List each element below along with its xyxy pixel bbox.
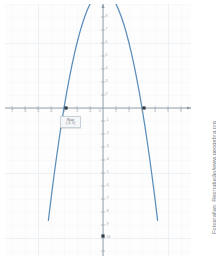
y-tick-label: -8: [106, 210, 109, 213]
x-tick-label: -5: [36, 110, 39, 113]
x-tick-label: 5: [167, 110, 169, 113]
plot-area: -7 -6 -5 -4 -3 -2 -1 0 1 2 3 4 5 6 8 7 6…: [5, 4, 191, 256]
x-tick-label: 2: [128, 110, 130, 113]
y-tick-label: -6: [106, 184, 109, 187]
y-tick-label: 2: [106, 93, 108, 96]
root-callout[interactable]: Raiz (-3, 0): [60, 116, 81, 128]
x-tick-label: 4: [154, 110, 156, 113]
x-tick-label: -4: [49, 110, 52, 113]
x-tick-label: -2: [75, 110, 78, 113]
credit-text: Fotografias: Reprodução/www.geogebra.org: [211, 121, 216, 234]
y-tick-label: 7: [106, 28, 108, 31]
x-tick-label: -3: [62, 110, 65, 113]
callout-coords: (-3, 0): [63, 122, 78, 126]
x-tick-label: 3: [141, 110, 143, 113]
x-tick-label: -7: [10, 110, 13, 113]
y-tick-label: 3: [106, 80, 108, 83]
major-gridlines: [5, 4, 191, 256]
x-tick-label: -6: [23, 110, 26, 113]
y-tick-label: 8: [106, 15, 108, 18]
y-tick-label: -7: [106, 197, 109, 200]
vertex-point[interactable]: [101, 234, 104, 237]
x-tick-label: -1: [88, 110, 91, 113]
credit-strip: Fotografias: Reprodução/www.geogebra.org: [191, 0, 216, 259]
y-tick-label: -3: [106, 145, 109, 148]
y-tick-label: -4: [106, 158, 109, 161]
x-tick-label: 6: [180, 110, 182, 113]
y-tick-label: 4: [106, 67, 108, 70]
y-tick-label: -5: [106, 171, 109, 174]
y-tick-label: -2: [106, 132, 109, 135]
y-tick-label: 5: [106, 54, 108, 57]
y-tick-label: -10: [106, 236, 111, 239]
y-tick-label: 6: [106, 41, 108, 44]
x-tick-label-origin: 0: [99, 110, 101, 113]
x-tick-label: 1: [115, 110, 117, 113]
graph-canvas: [5, 4, 191, 256]
graph-screenshot: -7 -6 -5 -4 -3 -2 -1 0 1 2 3 4 5 6 8 7 6…: [0, 0, 216, 259]
y-tick-label: -9: [106, 223, 109, 226]
y-tick-label: -1: [106, 119, 109, 122]
